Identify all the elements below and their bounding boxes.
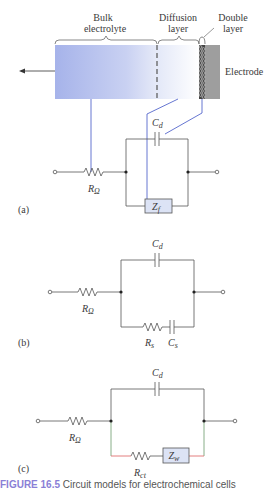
circuit-c-green-wires bbox=[111, 421, 204, 456]
node-right-b bbox=[192, 290, 195, 293]
double-layer-pattern bbox=[199, 45, 205, 99]
bulk-label-line2: electrolyte bbox=[84, 23, 127, 34]
panel-label-c: (c) bbox=[18, 463, 29, 475]
diffusion-layer-region bbox=[157, 45, 199, 99]
figure-caption: FIGURE 16.5 Circuit models for electroch… bbox=[0, 479, 274, 489]
r-omega-label-b: RΩ bbox=[81, 303, 94, 316]
node-right-c bbox=[202, 419, 205, 422]
double-layer-label-line1: Double bbox=[218, 12, 248, 23]
terminal-right-c bbox=[233, 419, 237, 423]
arrow-left-icon bbox=[19, 69, 25, 74]
terminal-left-a bbox=[53, 170, 57, 174]
node-left-c bbox=[109, 419, 112, 422]
double-layer-connector bbox=[165, 99, 202, 134]
bulk-electrolyte-region bbox=[55, 45, 157, 99]
double-layer-pointer bbox=[204, 28, 214, 37]
bulk-brace bbox=[55, 36, 157, 44]
panel-b: Cd RΩ Rs Cs (b) bbox=[18, 238, 225, 350]
cd-label-b: Cd bbox=[152, 238, 164, 251]
bulk-label-line1: Bulk bbox=[93, 12, 112, 23]
diffusion-connector bbox=[147, 99, 178, 199]
caption-text: Circuit models for electrochemical cells bbox=[63, 479, 236, 489]
terminal-left-c bbox=[36, 419, 40, 423]
panel-label-b: (b) bbox=[18, 337, 30, 349]
terminal-right-b bbox=[221, 290, 225, 294]
r-omega-label-a: RΩ bbox=[87, 183, 100, 196]
node-left-a bbox=[124, 170, 127, 173]
double-layer-brace bbox=[199, 37, 205, 44]
diffusion-label-line1: Diffusion bbox=[159, 12, 197, 23]
terminal-right-a bbox=[215, 170, 219, 174]
cd-label-a: Cd bbox=[152, 117, 164, 130]
cs-label-b: Cs bbox=[168, 337, 178, 350]
figure-number: FIGURE 16.5 bbox=[0, 479, 60, 489]
circuit-figure: Bulk electrolyte Diffusion layer Double … bbox=[0, 0, 274, 489]
r-omega-label-c: RΩ bbox=[68, 432, 81, 445]
node-left-b bbox=[119, 290, 122, 293]
electrode-label: Electrode bbox=[225, 66, 264, 77]
panel-label-a: (a) bbox=[18, 204, 29, 216]
node-right-a bbox=[186, 170, 189, 173]
circuit-b-wires bbox=[52, 253, 221, 334]
double-layer-label-line2: layer bbox=[223, 23, 244, 34]
cd-label-c: Cd bbox=[152, 367, 164, 380]
circuit-a-wires bbox=[57, 132, 215, 206]
rct-resistor bbox=[131, 452, 163, 460]
diffusion-label-line2: layer bbox=[168, 23, 189, 34]
electrode bbox=[205, 45, 220, 99]
rs-label-b: Rs bbox=[144, 337, 154, 350]
terminal-left-b bbox=[48, 290, 52, 294]
circuit-c-wires bbox=[40, 382, 233, 425]
panel-c: Zw Cd RΩ Rct (c) bbox=[18, 367, 237, 480]
diffusion-brace bbox=[158, 36, 199, 44]
panel-a: Bulk electrolyte Diffusion layer Double … bbox=[18, 12, 264, 216]
